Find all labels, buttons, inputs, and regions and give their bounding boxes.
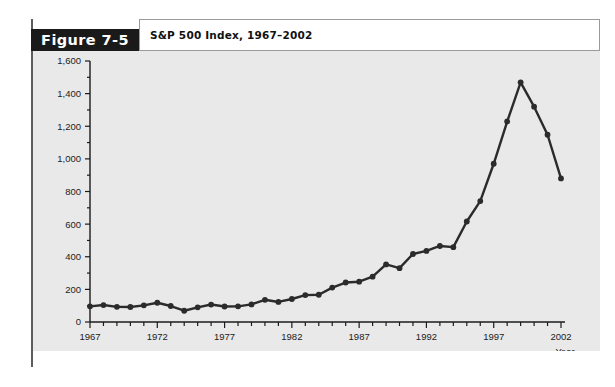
data-point-marker xyxy=(464,219,470,225)
x-axis-tick-label: 2002 xyxy=(550,331,571,342)
data-point-marker xyxy=(450,244,456,250)
data-point-marker xyxy=(235,303,241,309)
data-point-marker xyxy=(558,176,564,182)
plot-panel: 02004006008001,0001,2001,4001,6001967197… xyxy=(33,51,600,351)
data-point-marker xyxy=(168,303,174,309)
data-point-marker xyxy=(424,248,430,254)
x-axis-title: Year xyxy=(555,346,574,351)
data-point-marker xyxy=(127,304,133,310)
data-point-marker xyxy=(329,285,335,291)
figure-header: Figure 7-5 S&P 500 Index, 1967–2002 xyxy=(31,19,600,51)
data-point-marker xyxy=(504,119,510,125)
figure-title-box: S&P 500 Index, 1967–2002 xyxy=(139,19,600,51)
data-point-marker xyxy=(370,274,376,280)
y-axis-tick-label: 200 xyxy=(65,284,81,295)
x-axis-tick-label: 1987 xyxy=(349,331,370,342)
figure-number-tab: Figure 7-5 xyxy=(31,29,139,51)
data-point-marker xyxy=(477,198,483,204)
data-point-marker xyxy=(397,265,403,271)
data-point-marker xyxy=(195,304,201,310)
y-axis-tick-label: 400 xyxy=(65,251,81,262)
data-point-marker xyxy=(208,302,214,308)
data-point-marker xyxy=(316,292,322,298)
x-axis-tick-label: 1972 xyxy=(147,331,168,342)
x-axis-tick-label: 1967 xyxy=(79,331,100,342)
data-point-marker xyxy=(491,161,497,167)
y-axis-tick-label: 1,000 xyxy=(57,153,81,164)
y-axis-tick-label: 1,600 xyxy=(57,55,81,66)
y-axis-tick-label: 0 xyxy=(76,316,81,327)
figure-container: Figure 7-5 S&P 500 Index, 1967–2002 0200… xyxy=(0,0,615,387)
line-chart: 02004006008001,0001,2001,4001,6001967197… xyxy=(33,51,600,351)
data-point-marker xyxy=(154,300,160,306)
data-point-marker xyxy=(262,297,268,303)
data-point-marker xyxy=(101,302,107,308)
x-axis-tick-label: 1982 xyxy=(281,331,302,342)
data-point-marker xyxy=(87,303,93,309)
data-point-marker xyxy=(518,79,524,85)
x-axis-tick-label: 1992 xyxy=(416,331,437,342)
x-axis-tick-label: 1977 xyxy=(214,331,235,342)
data-point-marker xyxy=(276,299,282,305)
figure-title: S&P 500 Index, 1967–2002 xyxy=(140,29,313,41)
data-point-marker xyxy=(356,279,362,285)
data-point-marker xyxy=(531,104,537,110)
data-point-marker xyxy=(114,304,120,310)
data-point-marker xyxy=(343,280,349,286)
data-point-marker xyxy=(289,296,295,302)
data-point-marker xyxy=(383,262,389,268)
data-point-marker xyxy=(222,304,228,310)
y-axis-tick-label: 600 xyxy=(65,219,81,230)
data-point-marker xyxy=(410,251,416,257)
data-point-marker xyxy=(437,243,443,249)
data-point-marker xyxy=(545,132,551,138)
y-axis-tick-label: 800 xyxy=(65,186,81,197)
data-point-marker xyxy=(249,301,255,307)
y-axis-tick-label: 1,200 xyxy=(57,121,81,132)
data-point-marker xyxy=(302,292,308,298)
data-series-line xyxy=(90,82,561,310)
data-point-marker xyxy=(141,302,147,308)
data-point-marker xyxy=(181,308,187,314)
y-axis-tick-label: 1,400 xyxy=(57,88,81,99)
x-axis-tick-label: 1997 xyxy=(483,331,504,342)
